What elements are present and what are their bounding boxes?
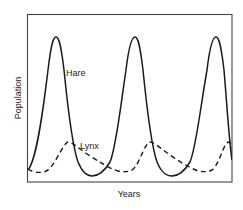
lynx-label: Lynx (80, 141, 99, 151)
predator-prey-chart: Hare Lynx Years Population (0, 0, 243, 210)
y-axis-title: Population (13, 77, 23, 120)
hare-label: Hare (66, 68, 86, 78)
lynx-series-line (28, 142, 233, 172)
hare-series-line (28, 37, 232, 176)
x-axis-title: Years (118, 189, 141, 199)
